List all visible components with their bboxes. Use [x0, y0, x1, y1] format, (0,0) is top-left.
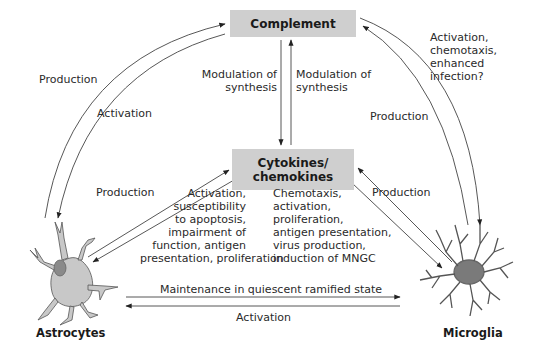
label-cytokines-to-complement: Modulation of synthesis [296, 68, 371, 94]
microglia-cell-icon [420, 225, 513, 316]
cytokines-node: Cytokines/ chemokines [232, 149, 354, 190]
astrocyte-cell-icon [30, 222, 118, 325]
label-microglia-to-complement: Production [370, 110, 429, 123]
astrocytes-label: Astrocytes [36, 326, 105, 340]
cytokines-label-line1: Cytokines/ [253, 156, 333, 170]
complement-node: Complement [230, 10, 356, 37]
label-complement-to-microglia: Activation, chemotaxis, enhanced infecti… [430, 31, 497, 83]
label-microglia-to-cytokines: Production [372, 186, 431, 199]
label-cytokines-to-astro: Activation, susceptibility to apoptosis,… [140, 187, 246, 265]
label-complement-to-cytokines: Modulation of synthesis [180, 68, 277, 94]
complement-label: Complement [250, 17, 335, 31]
label-astro-to-microglia: Maintenance in quiescent ramified state [160, 283, 382, 296]
label-microglia-to-astro: Activation [236, 311, 291, 324]
cytokines-label-line2: chemokines [253, 170, 333, 184]
microglia-label: Microglia [443, 326, 503, 340]
label-complement-to-astro: Activation [97, 107, 152, 120]
label-astro-to-complement: Production [39, 73, 98, 86]
